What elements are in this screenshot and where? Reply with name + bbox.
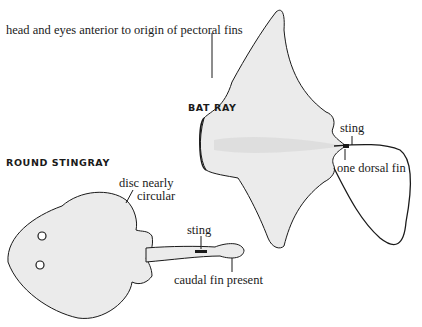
- label-bat-ray-sting: sting: [340, 121, 364, 135]
- label-disc-nearly: disc nearly: [119, 176, 174, 190]
- label-head-eyes: head and eyes anterior to origin of pect…: [6, 23, 243, 37]
- title-bat-ray: BAT RAY: [188, 102, 236, 113]
- label-caudal-fin: caudal fin present: [174, 273, 263, 287]
- bat-ray-drawing: [200, 10, 411, 248]
- label-one-dorsal-fin: one dorsal fin: [337, 161, 406, 175]
- label-round-stingray-sting: sting: [187, 223, 211, 237]
- label-circular: circular: [137, 189, 175, 203]
- title-round-stingray: ROUND STINGRAY: [6, 157, 110, 168]
- round-stingray-drawing: [8, 190, 244, 318]
